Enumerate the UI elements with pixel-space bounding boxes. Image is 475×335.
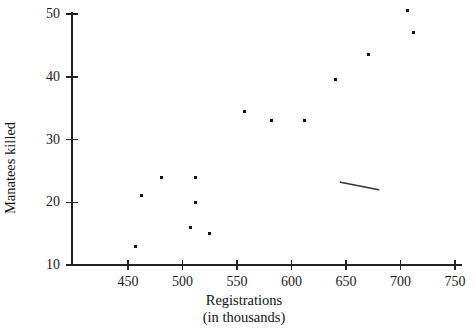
data-point bbox=[406, 9, 409, 12]
x-tick-label-750: 750 bbox=[445, 275, 466, 289]
annotations-group bbox=[341, 182, 379, 190]
data-point bbox=[243, 110, 246, 113]
data-point bbox=[194, 201, 197, 204]
x-tick-label-500: 500 bbox=[172, 275, 193, 289]
x-tick-label-700: 700 bbox=[390, 275, 411, 289]
data-point bbox=[412, 31, 415, 34]
y-tick-label-40: 40 bbox=[46, 70, 60, 84]
y-tick-label-10: 10 bbox=[46, 258, 60, 272]
x-axis-title: Registrations (in thousands) bbox=[203, 292, 286, 325]
data-point bbox=[194, 176, 197, 179]
x-axis-title-line1: Registrations bbox=[203, 292, 286, 309]
data-point bbox=[367, 53, 370, 56]
axis-ticks-group bbox=[66, 14, 455, 270]
y-tick-label-20: 20 bbox=[46, 195, 60, 209]
x-tick-label-450: 450 bbox=[118, 275, 139, 289]
y-tick-label-50: 50 bbox=[46, 7, 60, 21]
scatter-plot-figure: 1020304050 450500550600650700750 Manatee… bbox=[0, 0, 475, 335]
short-line-segment bbox=[341, 182, 379, 190]
data-point bbox=[140, 194, 143, 197]
data-point bbox=[160, 176, 163, 179]
data-point bbox=[134, 245, 137, 248]
data-point bbox=[208, 232, 211, 235]
data-point bbox=[189, 226, 192, 229]
axes-group bbox=[72, 12, 462, 265]
x-tick-label-600: 600 bbox=[281, 275, 302, 289]
data-point bbox=[303, 119, 306, 122]
data-points-group bbox=[134, 9, 415, 247]
y-tick-label-30: 30 bbox=[46, 133, 60, 147]
data-point bbox=[270, 119, 273, 122]
y-axis-title: Manatees killed bbox=[3, 122, 18, 214]
x-tick-label-650: 650 bbox=[336, 275, 357, 289]
data-point bbox=[334, 78, 337, 81]
x-axis-title-line2: (in thousands) bbox=[203, 309, 286, 326]
x-tick-label-550: 550 bbox=[227, 275, 248, 289]
